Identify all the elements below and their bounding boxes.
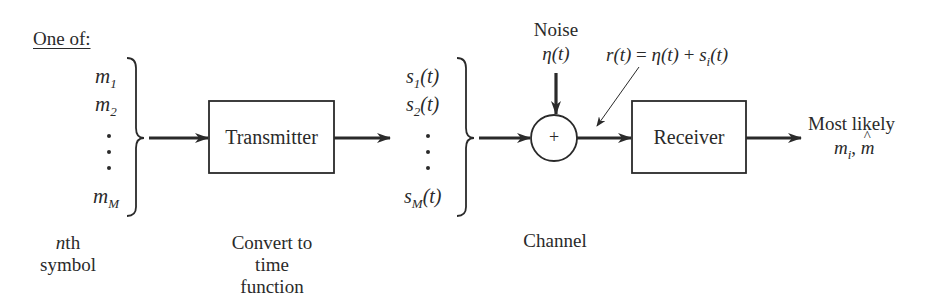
- source-caption: nth symbol: [40, 232, 96, 276]
- transmitter-label: Transmitter: [209, 101, 334, 173]
- m-hat: m: [861, 138, 875, 157]
- source-set-heading: One of:: [33, 29, 91, 48]
- symbol-m1: m1: [95, 66, 117, 90]
- signal-brace: [457, 58, 474, 216]
- signal-sM: sM(t): [404, 186, 442, 210]
- signal-s1: s1(t): [406, 66, 439, 90]
- channel-caption: Channel: [523, 231, 586, 250]
- diagram-graphics: [0, 0, 937, 308]
- adder-plus: +: [549, 128, 559, 146]
- ellipsis-m: [107, 134, 111, 182]
- received-signal-equation: r(t) = η(t) + si(t): [606, 45, 728, 68]
- signal-s2: s2(t): [406, 94, 439, 118]
- symbol-mM: mM: [93, 186, 119, 210]
- noise-label: Noise: [534, 20, 578, 39]
- symbol-m2: m2: [95, 94, 117, 118]
- output-estimate: mi, m: [834, 138, 875, 161]
- ellipsis-s: [426, 134, 430, 182]
- receiver-label: Receiver: [632, 101, 746, 173]
- transmitter-caption: Convert to time function: [232, 232, 313, 298]
- block-diagram: One of: m1 m2 mM nth symbol Transmitter …: [0, 0, 937, 308]
- left-brace: [127, 58, 144, 216]
- noise-symbol: η(t): [542, 44, 569, 63]
- output-label: Most likely: [808, 114, 895, 133]
